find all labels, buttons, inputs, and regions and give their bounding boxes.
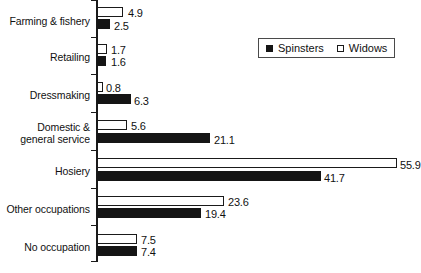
bar-widows bbox=[97, 234, 137, 244]
category-label: Retailing bbox=[50, 51, 90, 63]
bar-value-label: 5.6 bbox=[131, 121, 146, 132]
bar-value-label: 21.1 bbox=[214, 135, 235, 146]
bar-value-label: 7.4 bbox=[141, 247, 156, 258]
bar-spinsters bbox=[97, 19, 110, 29]
bar-value-label: 1.6 bbox=[111, 57, 126, 68]
category-label: Domestic & general service bbox=[20, 121, 90, 145]
horizontal-bar-chart: Farming & fishery 4.9 2.5 Retailing 1.7 … bbox=[0, 0, 421, 273]
bar-value-label: 23.6 bbox=[228, 197, 249, 208]
category-label: Farming & fishery bbox=[9, 15, 90, 27]
bar-value-label: 19.4 bbox=[205, 209, 226, 220]
bar-value-label: 55.9 bbox=[400, 160, 421, 171]
chart-legend: Spinsters Widows bbox=[258, 38, 395, 58]
axis-tick bbox=[91, 188, 96, 189]
bar-value-label: 41.7 bbox=[324, 173, 345, 184]
bar-value-label: 4.9 bbox=[128, 8, 143, 19]
bar-widows bbox=[97, 120, 127, 130]
legend-swatch-hollow-icon bbox=[337, 45, 344, 52]
bar-value-label: 2.5 bbox=[114, 21, 129, 32]
bar-spinsters bbox=[97, 94, 131, 104]
bar-spinsters bbox=[97, 171, 321, 181]
legend-entry-spinsters: Spinsters bbox=[266, 42, 324, 54]
bar-value-label: 7.5 bbox=[141, 235, 156, 246]
bar-widows bbox=[97, 7, 123, 17]
axis-tick bbox=[91, 37, 96, 38]
bar-spinsters bbox=[97, 133, 210, 143]
bar-spinsters bbox=[97, 246, 137, 256]
bar-value-label: 0.8 bbox=[106, 83, 121, 94]
category-label: Other occupations bbox=[6, 203, 90, 215]
bar-widows bbox=[97, 158, 397, 168]
bar-spinsters bbox=[97, 56, 106, 66]
bar-value-label: 6.3 bbox=[134, 96, 149, 107]
bar-widows bbox=[97, 44, 107, 54]
category-label: No occupation bbox=[24, 241, 90, 253]
legend-entry-widows: Widows bbox=[337, 42, 388, 54]
category-label: Dressmaking bbox=[30, 89, 90, 101]
axis-tick bbox=[91, 261, 96, 262]
bar-widows bbox=[97, 82, 103, 92]
legend-label: Spinsters bbox=[278, 42, 324, 54]
bar-widows bbox=[97, 196, 224, 206]
axis-tick bbox=[91, 0, 96, 1]
axis-tick bbox=[91, 150, 96, 151]
legend-swatch-filled-icon bbox=[266, 45, 273, 52]
bar-value-label: 1.7 bbox=[111, 45, 126, 56]
category-label: Hosiery bbox=[55, 165, 90, 177]
bar-spinsters bbox=[97, 208, 201, 218]
axis-tick bbox=[91, 74, 96, 75]
axis-tick bbox=[91, 112, 96, 113]
axis-tick bbox=[91, 225, 96, 226]
category-axis-line bbox=[96, 0, 98, 262]
legend-label: Widows bbox=[349, 42, 388, 54]
